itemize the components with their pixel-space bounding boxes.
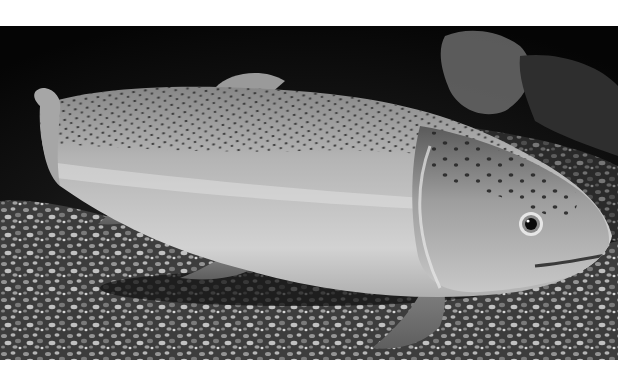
trout-illustration	[0, 26, 618, 360]
trout-photograph	[0, 26, 618, 360]
fish-eye	[519, 212, 543, 236]
